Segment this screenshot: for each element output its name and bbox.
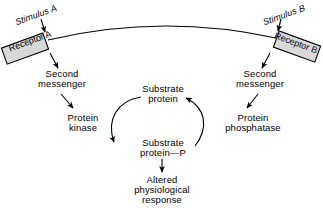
second-messenger-left-line2: messenger	[26, 79, 98, 90]
second-messenger-to-protein-kinase-arrow	[61, 94, 73, 108]
receptor-b-to-second-messenger-arrow	[262, 53, 270, 68]
protein-kinase-line2: kinase	[54, 123, 112, 134]
substrate-protein-phosphate-line2: protein—P	[124, 148, 202, 159]
second-messenger-right-line2: messenger	[224, 79, 296, 90]
signaling-pathway-diagram: Receptor A Receptor B Stimulus A Stimulu…	[0, 0, 323, 208]
altered-response-line3: response	[112, 195, 212, 206]
substrate-protein-line2: protein	[128, 94, 198, 105]
second-messenger-to-protein-phosphatase-arrow	[247, 94, 258, 108]
receptor-a-to-second-messenger-arrow	[50, 53, 58, 68]
cell-membrane-arc	[48, 26, 276, 40]
protein-phosphatase-line2: phosphatase	[213, 123, 293, 134]
